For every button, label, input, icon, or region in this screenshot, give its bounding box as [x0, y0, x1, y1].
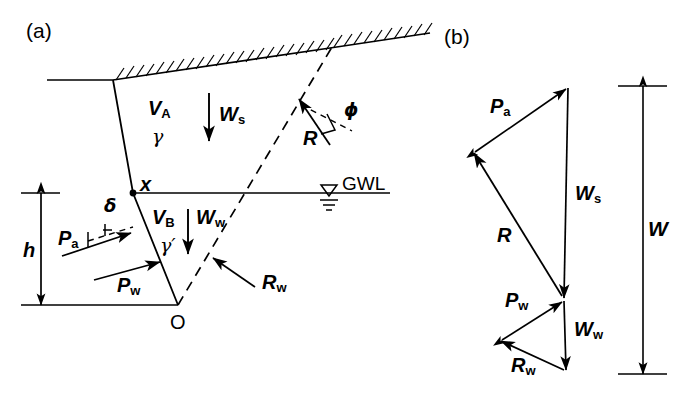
label-v-a: VA [148, 98, 171, 118]
point-x-marker [130, 190, 137, 197]
slope-hatching [116, 23, 432, 80]
b-label-w-s: Ws [575, 183, 601, 203]
b-label-r: R [497, 225, 511, 245]
rw-force-arrow [213, 258, 255, 287]
label-gamma-effective: γ′ [160, 236, 176, 255]
panel-a-tag: (a) [26, 20, 52, 41]
label-w-w: Ww [196, 207, 225, 227]
gwl-symbol [320, 185, 338, 210]
label-w-s: Ws [219, 104, 245, 124]
label-point-o: O [170, 312, 186, 332]
label-delta: δ [104, 197, 116, 215]
label-point-x: x [140, 174, 151, 194]
label-v-b: VB [152, 207, 175, 227]
ground-surface-line [47, 33, 430, 80]
figure-canvas: (a) VA γ Ws x VB γ′ Ww GWL R ϕ δ Pa Pw R… [0, 0, 692, 401]
b-label-w-w: Ww [574, 319, 603, 339]
panel-b-tag: (b) [444, 26, 470, 47]
label-r-w: Rw [262, 272, 287, 292]
b-ww-vector [564, 301, 566, 370]
b-label-p-a: Pa [490, 96, 511, 116]
label-phi: ϕ [344, 101, 358, 119]
label-r: R [303, 128, 317, 148]
failure-plane-dashed [178, 47, 332, 305]
b-pa-vector [475, 89, 566, 152]
label-p-w: Pw [117, 275, 140, 295]
label-h: h [23, 240, 35, 260]
panel-a-geometry [21, 23, 432, 305]
b-r-vector [474, 153, 562, 296]
label-p-a: Pa [58, 228, 79, 248]
b-ws-vector [564, 88, 568, 298]
b-label-w-total: W [648, 218, 668, 239]
b-label-p-w: Pw [505, 290, 528, 310]
label-gwl: GWL [342, 174, 385, 193]
label-gamma: γ [152, 127, 163, 146]
b-label-r-w: Rw [511, 355, 536, 375]
